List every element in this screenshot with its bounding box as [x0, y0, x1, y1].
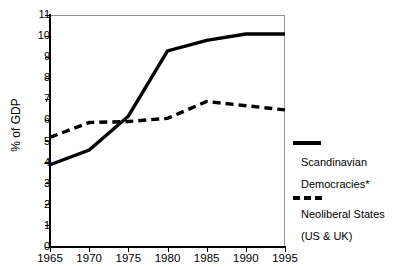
chart-figure: % of GDP 11109876543210 1965197019751980… — [0, 0, 410, 267]
y-tick-label: 1 — [20, 220, 50, 231]
y-tick-label-text: 2 — [32, 199, 50, 210]
legend-label-us-uk: (US & UK) — [301, 230, 352, 242]
y-tick-label-text: 11 — [32, 9, 50, 20]
y-tick-label: 11 — [20, 9, 50, 20]
y-tick-label-text: 9 — [32, 51, 50, 62]
legend-swatch-solid-icon — [293, 141, 321, 145]
legend-swatch-dashed-icon — [293, 196, 322, 200]
y-tick-label-text: 10 — [32, 30, 50, 41]
y-tick-label: 8 — [20, 72, 50, 83]
y-tick-label: 10 — [20, 30, 50, 41]
y-tick-label: 3 — [20, 178, 50, 189]
legend-label-scandinavian: Scandinavian — [301, 156, 367, 168]
y-tick-label-text: 8 — [32, 72, 50, 83]
y-tick-label-text: 5 — [32, 136, 50, 147]
y-tick-label: 2 — [20, 199, 50, 210]
y-tick-label: 6 — [20, 114, 50, 125]
x-tick-label-text: 1990 — [224, 252, 268, 265]
y-tick-label: 4 — [20, 157, 50, 168]
y-tick-label: 7 — [20, 93, 50, 104]
y-tick-label: 9 — [20, 51, 50, 62]
y-tick-label-text: 3 — [32, 178, 50, 189]
y-tick-label-text: 0 — [32, 241, 50, 252]
x-tick-label-text: 1970 — [67, 252, 111, 265]
y-tick-label-text: 1 — [32, 220, 50, 231]
y-axis-line — [49, 14, 51, 248]
x-tick-label-text: 1980 — [146, 252, 190, 265]
y-tick-label: 0 — [20, 241, 50, 252]
x-tick-label-text: 1995 — [263, 252, 307, 265]
legend-label-neoliberal-states: Neoliberal States — [301, 208, 385, 220]
legend-label-democracies: Democracies* — [301, 178, 369, 190]
y-tick-label-text: 6 — [32, 114, 50, 125]
x-tick-label-text: 1985 — [185, 252, 229, 265]
x-tick-label-text: 1975 — [106, 252, 150, 265]
y-tick-label-text: 4 — [32, 157, 50, 168]
plot-frame — [50, 15, 285, 247]
y-tick-label-text: 7 — [32, 93, 50, 104]
y-tick-label: 5 — [20, 136, 50, 147]
x-tick-label-text: 1965 — [28, 252, 72, 265]
